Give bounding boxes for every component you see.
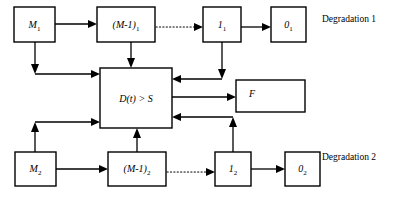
arrowhead-one-2-up — [229, 117, 237, 127]
arrowhead-m1-to-mm1-1 — [88, 20, 97, 28]
arrowhead-mm1-2-into-dts — [133, 128, 141, 138]
arrowhead-m2-to-mm1-2 — [99, 165, 108, 173]
arrowhead-one-2-to-zero-2 — [276, 165, 285, 173]
arrowhead-one-1-to-zero-1 — [262, 23, 271, 31]
arrowhead-m1-down — [31, 64, 39, 74]
box-f-label: F — [248, 88, 256, 99]
arrowhead-one-2-into-dts — [172, 113, 181, 121]
diagram-canvas: M1 (M-1)1 11 01 D(t) > S F M2 (M-1)2 12 … — [0, 0, 410, 200]
label-degradation-2: Degradation 2 — [322, 152, 376, 162]
degradation-flow-diagram: M1 (M-1)1 11 01 D(t) > S F M2 (M-1)2 12 … — [0, 0, 410, 200]
arrowhead-one-1-into-dts — [172, 75, 181, 83]
arrowhead-one-1-down — [218, 69, 226, 79]
arrowhead-dts-to-f — [227, 93, 236, 101]
box-dts-label: D(t) > S — [118, 93, 152, 105]
label-degradation-1: Degradation 1 — [322, 14, 376, 24]
arrowhead-mm1-1-to-one-1 — [194, 23, 203, 31]
arrowhead-m2-up — [31, 122, 39, 132]
arrowhead-m2-into-dts — [91, 118, 100, 126]
arrowhead-m1-into-dts — [91, 70, 100, 78]
arrowhead-mm1-2-to-one-2 — [206, 168, 215, 176]
arrowhead-mm1-1-into-dts — [127, 58, 135, 68]
box-f — [236, 80, 305, 112]
